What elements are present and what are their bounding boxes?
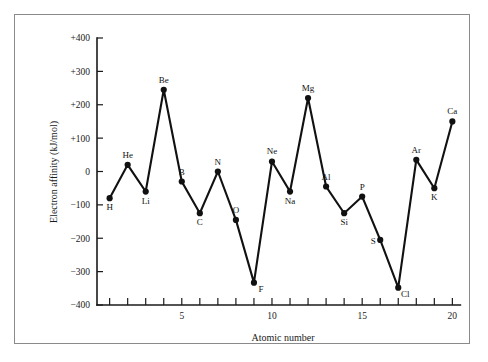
y-tick-label: −400 <box>70 300 90 310</box>
y-tick-label: +200 <box>70 100 90 110</box>
data-point-marker <box>143 188 149 194</box>
data-point-marker <box>377 237 383 243</box>
element-symbol-label: Al <box>322 172 331 182</box>
electron-affinity-chart: +400+300+200+1000−100−200−300−400 510152… <box>0 0 488 362</box>
y-tick-label: +400 <box>70 33 90 43</box>
element-symbol-label: Cl <box>401 289 410 299</box>
element-symbol-label: P <box>360 182 365 192</box>
y-tick-label: +300 <box>70 67 90 77</box>
data-point-marker <box>341 210 347 216</box>
element-symbol-label: Ne <box>267 146 278 156</box>
y-tick-label: −200 <box>70 234 90 244</box>
x-tick-label: 10 <box>267 311 277 321</box>
x-axis-title: Atomic number <box>251 332 315 343</box>
y-tick-label: +100 <box>70 134 90 144</box>
element-symbol-label: H <box>106 202 113 212</box>
y-tick-label: −300 <box>70 267 90 277</box>
data-point-marker <box>449 118 455 124</box>
data-point-marker <box>287 188 293 194</box>
element-symbol-label: Be <box>159 75 169 85</box>
y-axis-title: Electron affinity (kJ/mol) <box>48 121 60 223</box>
data-point-marker <box>125 162 131 168</box>
x-tick-label: 20 <box>448 311 458 321</box>
data-point-marker <box>161 87 167 93</box>
element-symbol-label: Na <box>285 196 296 206</box>
y-axis-ticks <box>97 38 103 305</box>
element-symbol-label: Si <box>340 217 348 227</box>
element-symbol-label: N <box>215 157 222 167</box>
x-tick-label: 5 <box>179 311 184 321</box>
y-axis-tick-labels: +400+300+200+1000−100−200−300−400 <box>70 33 90 310</box>
element-symbol-label: S <box>371 236 376 246</box>
data-point-marker <box>305 95 311 101</box>
element-symbol-label: Ar <box>412 145 422 155</box>
element-symbol-label: F <box>258 284 263 294</box>
data-point-marker <box>359 193 365 199</box>
data-point-marker <box>323 183 329 189</box>
data-point-marker <box>107 195 113 201</box>
element-symbol-labels: HHeLiBeBCNOFNeNaMgAlSiPSClArKCa <box>106 75 457 299</box>
element-symbol-label: Li <box>142 196 150 206</box>
element-symbol-label: Ca <box>447 106 457 116</box>
data-point-marker <box>179 178 185 184</box>
x-axis-ticks <box>110 298 453 305</box>
element-symbol-label: K <box>431 192 438 202</box>
data-point-marker <box>251 280 257 286</box>
data-point-marker <box>215 168 221 174</box>
data-point-marker <box>233 217 239 223</box>
data-point-marker <box>413 157 419 163</box>
y-tick-label: −100 <box>70 200 90 210</box>
data-point-marker <box>197 210 203 216</box>
y-tick-label: 0 <box>85 167 90 177</box>
element-symbol-label: B <box>179 167 185 177</box>
element-symbol-label: He <box>122 150 133 160</box>
data-point-marker <box>269 158 275 164</box>
element-symbol-label: C <box>197 217 203 227</box>
electron-affinity-series <box>110 90 453 288</box>
x-axis-tick-labels: 5101520 <box>179 311 457 321</box>
element-symbol-label: Mg <box>302 83 315 93</box>
x-tick-label: 15 <box>357 311 367 321</box>
data-point-marker <box>431 185 437 191</box>
element-symbol-label: O <box>233 205 240 215</box>
